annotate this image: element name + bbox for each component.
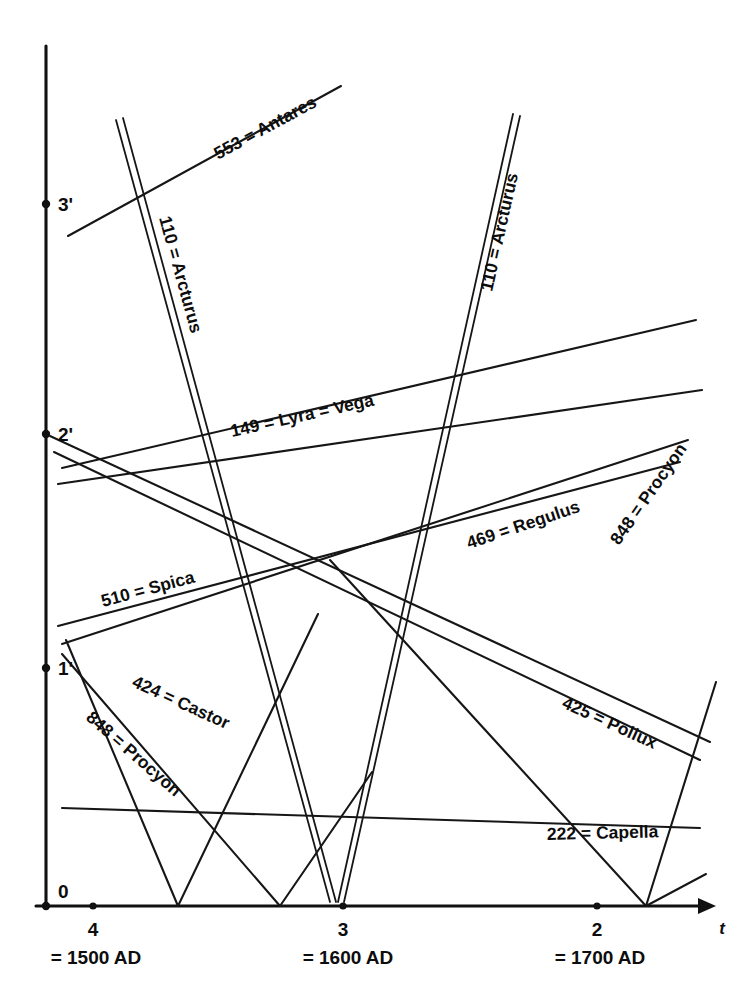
x-year-label-1700: = 1700 AD <box>555 947 646 968</box>
series-label-regulus: 469 = Regulus <box>464 496 583 553</box>
series-label-vega: 149 = Lyra = Vega <box>229 390 376 441</box>
y-tick-dot-1 <box>42 664 50 672</box>
y-tick-labels: 3' 2' 1' 0 <box>58 194 73 902</box>
series-line-procyon-falling <box>62 654 372 906</box>
x-tick-label-3: 3 <box>338 919 349 940</box>
chart-canvas: 3' 2' 1' 0 4 3 2 = 1500 AD = 1600 AD = 1… <box>0 0 752 1000</box>
y-tick-label-0: 0 <box>58 881 69 902</box>
series-line-v-left <box>66 614 318 906</box>
series-label-procyon-rising: 848 = Procyon <box>606 439 691 548</box>
series-label-capella: 222 = Capella <box>547 821 659 844</box>
x-year-label-1500: = 1500 AD <box>51 947 142 968</box>
series-label-procyon-falling: 848 = Procyon <box>82 707 185 800</box>
x-tick-dot-3 <box>339 902 346 909</box>
series-line-vega <box>62 320 696 468</box>
x-axis-name-label: t <box>719 919 726 938</box>
series-line-arcturus-left-a <box>116 120 330 902</box>
chart-figure: 3' 2' 1' 0 4 3 2 = 1500 AD = 1600 AD = 1… <box>0 0 752 1000</box>
x-year-label-1600: = 1600 AD <box>303 947 394 968</box>
x-tick-label-4: 4 <box>88 919 99 940</box>
x-tick-label-2: 2 <box>592 919 603 940</box>
series-label-arcturus-left: 110 = Arcturus <box>155 214 207 336</box>
series-label-pollux: 425 = Pollux <box>559 692 660 752</box>
y-tick-label-3: 3' <box>58 194 73 215</box>
y-tick-dot-2 <box>42 430 50 438</box>
x-tick-dot-2 <box>593 902 600 909</box>
series-label-antares: 553 = Antares <box>210 92 320 164</box>
y-tick-dot-3 <box>42 200 50 208</box>
y-tick-label-1: 1' <box>58 658 73 679</box>
data-lines-group <box>50 86 716 906</box>
x-tick-dot-4 <box>89 902 96 909</box>
y-tick-label-2: 2' <box>58 424 73 445</box>
series-line-procyon-rising <box>58 390 702 484</box>
y-tick-dot-0 <box>42 902 50 910</box>
x-tick-labels: 4 3 2 = 1500 AD = 1600 AD = 1700 AD t <box>51 919 727 968</box>
series-label-arcturus-right: 110 = Arcturus <box>476 171 522 293</box>
x-axis-arrowhead <box>698 898 716 914</box>
series-label-castor: 424 = Castor <box>129 671 233 733</box>
